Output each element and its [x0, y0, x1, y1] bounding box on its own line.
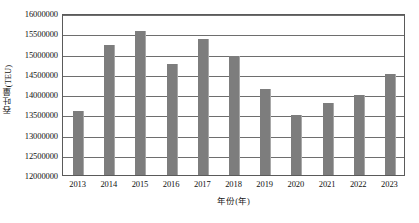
y-axis-tick-label: 12000000	[25, 171, 58, 181]
y-axis-tick-label: 12500000	[25, 151, 58, 161]
x-axis-tick-labels: 2013201420152016201720182019202020212022…	[62, 179, 405, 193]
y-axis-tick-label: 15000000	[25, 50, 58, 60]
y-axis-tick-label: 14000000	[25, 90, 58, 100]
x-axis-tick-label: 2017	[194, 179, 211, 189]
x-axis-tick-label: 2020	[288, 179, 305, 189]
bar	[198, 39, 209, 175]
x-axis-title-text: 年份(年)	[217, 196, 250, 206]
x-axis-tick-label: 2023	[381, 179, 398, 189]
y-axis-tick-label: 16000000	[25, 9, 58, 19]
y-axis-title-text: 吞吐量(TEU)	[4, 65, 13, 114]
bar	[323, 103, 334, 175]
bar	[291, 115, 302, 175]
x-axis-tick-label: 2015	[132, 179, 149, 189]
bar	[73, 111, 84, 175]
y-axis-tick-label: 13500000	[25, 110, 58, 120]
bar	[260, 89, 271, 175]
y-axis-tick-label: 14500000	[25, 70, 58, 80]
bar	[385, 74, 396, 175]
bar	[354, 95, 365, 175]
x-axis-title: 年份(年)	[62, 194, 405, 206]
bar	[229, 56, 240, 175]
bar	[167, 64, 178, 175]
bar	[104, 45, 115, 175]
bar-chart: 吞吐量(TEU) 1200000012500000130000001350000…	[0, 0, 419, 223]
bar	[135, 31, 146, 175]
x-axis-tick-label: 2016	[163, 179, 180, 189]
bars-layer	[63, 15, 404, 175]
y-axis-tick-label: 15500000	[25, 29, 58, 39]
plot-area	[62, 14, 405, 176]
x-axis-tick-label: 2014	[100, 179, 117, 189]
x-axis-tick-label: 2018	[225, 179, 242, 189]
y-axis-tick-labels: 1200000012500000130000001350000014000000…	[14, 14, 60, 176]
x-axis-tick-label: 2021	[319, 179, 336, 189]
x-axis-tick-label: 2013	[69, 179, 86, 189]
y-axis-tick-label: 13000000	[25, 131, 58, 141]
x-axis-tick-label: 2022	[350, 179, 367, 189]
x-axis-tick-label: 2019	[256, 179, 273, 189]
